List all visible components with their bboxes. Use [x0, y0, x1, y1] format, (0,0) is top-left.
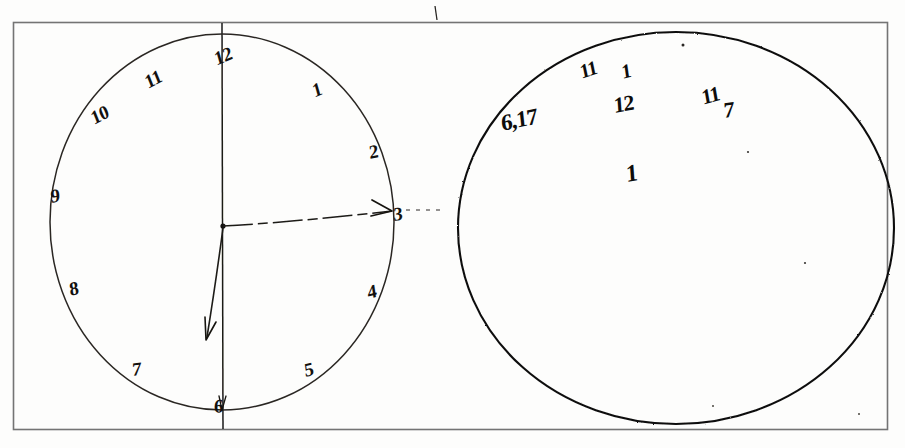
- second-circle: [458, 32, 894, 424]
- left-clock-group: [14, 23, 440, 429]
- scatter-mark-7: 7: [723, 99, 734, 122]
- clock-numeral-2: 2: [368, 141, 379, 162]
- scatter-mark-11-b: 11: [700, 83, 721, 109]
- tick-above-frame-icon: [435, 6, 437, 20]
- speck-lower-right: [804, 262, 806, 264]
- speck-far-bottom-right: [858, 413, 860, 415]
- clock-hand-to-three: [223, 200, 392, 226]
- scatter-mark-12: 12: [613, 92, 634, 118]
- drawing-canvas: [0, 0, 905, 448]
- page-frame: [14, 23, 888, 430]
- speck-upper-right-circle: [682, 44, 685, 47]
- clock-numeral-6: 6: [214, 396, 223, 416]
- clock-numeral-7: 7: [132, 359, 141, 379]
- speck-right-mid: [747, 151, 749, 153]
- clock-numeral-3: 3: [393, 204, 403, 224]
- clock-hand-to-lower-left: [205, 228, 223, 340]
- right-circle-group: [458, 32, 894, 424]
- scatter-mark-1-b: 1: [625, 160, 638, 186]
- speck-bottom-right: [712, 405, 714, 407]
- scanned-worksheet: 12 1 2 3 4 5 6 7 8 9 10 11 6,17 11 1 12 …: [0, 0, 905, 448]
- clock-numeral-9: 9: [50, 185, 60, 206]
